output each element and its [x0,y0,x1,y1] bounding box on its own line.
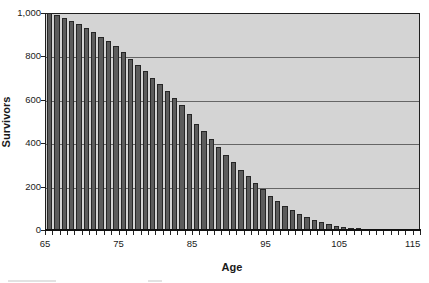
x-axis-line [45,229,421,231]
bar-age-85 [194,124,199,230]
bar-age-66 [54,15,59,230]
x-tick-80 [155,231,156,235]
x-tick-109 [369,231,370,235]
y-tick-600 [41,100,45,101]
bar-age-90 [231,162,236,230]
bar-age-86 [201,131,206,230]
x-tick-65 [45,231,46,235]
x-tick-82 [170,231,171,235]
x-tick-97 [280,231,281,235]
x-tick-106 [346,231,347,235]
x-tick-103 [324,231,325,235]
x-tick-69 [74,231,75,235]
x-tick-71 [89,231,90,235]
y-tick-1000 [41,13,45,14]
bar-age-81 [165,91,170,230]
bar-age-79 [150,78,155,230]
x-tick-90 [229,231,230,235]
x-tick-66 [52,231,53,235]
bar-age-88 [216,147,221,230]
survivorship-bar-chart: 1,0008006004002000 65758595105115 Surviv… [0,0,429,283]
bar-age-74 [113,46,118,230]
x-tick-89 [221,231,222,235]
y-tick-0 [41,230,45,231]
x-tick-label-85: 85 [177,238,207,249]
x-tick-78 [141,231,142,235]
bar-age-82 [172,98,177,230]
x-tick-label-75: 75 [104,238,134,249]
bar-age-83 [179,105,184,230]
bar-age-95 [268,196,273,230]
bar-age-80 [157,84,162,230]
bar-age-72 [98,37,103,230]
x-tick-79 [148,231,149,235]
bar-age-65 [47,13,52,230]
x-tick-105 [339,231,340,235]
x-tick-93 [251,231,252,235]
bar-age-68 [69,21,74,230]
bar-age-91 [238,170,243,230]
x-tick-88 [214,231,215,235]
x-tick-76 [126,231,127,235]
x-tick-67 [60,231,61,235]
x-tick-84 [185,231,186,235]
x-tick-label-65: 65 [30,238,60,249]
x-tick-101 [310,231,311,235]
bar-age-98 [290,210,295,230]
bar-age-73 [106,41,111,230]
x-tick-104 [332,231,333,235]
x-tick-75 [119,231,120,235]
x-tick-98 [288,231,289,235]
y-tick-label-0: 0 [0,225,41,235]
y-tick-label-200: 200 [0,182,41,192]
x-tick-95 [266,231,267,235]
x-tick-label-115: 115 [398,238,428,249]
bar-age-84 [187,114,192,230]
y-tick-800 [41,56,45,57]
bar-age-96 [275,201,280,230]
x-tick-83 [177,231,178,235]
x-tick-74 [111,231,112,235]
x-tick-73 [104,231,105,235]
bar-age-89 [223,155,228,230]
y-axis-title: Survivors [0,87,12,157]
x-tick-96 [273,231,274,235]
cropped-caption-artifact [148,280,162,282]
cropped-caption-artifact [8,280,56,282]
x-tick-99 [295,231,296,235]
y-tick-label-1000: 1,000 [0,8,41,18]
x-tick-81 [163,231,164,235]
x-tick-113 [398,231,399,235]
bar-age-99 [297,214,302,230]
x-tick-111 [383,231,384,235]
x-tick-label-95: 95 [251,238,281,249]
bar-age-97 [282,206,287,230]
x-tick-77 [133,231,134,235]
x-tick-108 [361,231,362,235]
bar-age-92 [246,176,251,230]
bar-age-93 [253,183,258,230]
x-tick-116 [420,231,421,235]
x-tick-94 [258,231,259,235]
bar-age-71 [91,32,96,230]
bar-age-76 [128,59,133,230]
plot-area [45,13,420,230]
bar-age-69 [76,24,81,230]
x-tick-85 [192,231,193,235]
x-tick-91 [236,231,237,235]
bar-age-70 [84,28,89,230]
y-tick-label-800: 800 [0,51,41,61]
bar-age-67 [62,18,67,230]
x-tick-107 [354,231,355,235]
x-tick-87 [207,231,208,235]
x-tick-86 [199,231,200,235]
y-tick-400 [41,143,45,144]
y-tick-200 [41,187,45,188]
x-tick-112 [391,231,392,235]
x-tick-72 [96,231,97,235]
bar-age-94 [260,189,265,230]
x-tick-label-105: 105 [324,238,354,249]
bar-age-75 [121,52,126,230]
bar-age-77 [135,65,140,230]
bar-age-78 [143,71,148,230]
